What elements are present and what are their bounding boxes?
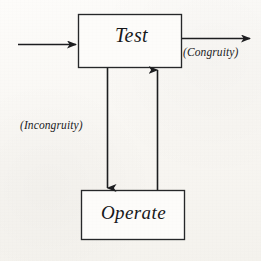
node-operate-label: Operate: [82, 203, 185, 223]
edge-congruity-label: (Congruity): [183, 46, 238, 58]
edge-incongruity-label: (Incongruity): [20, 119, 83, 131]
node-test-label: Test: [81, 25, 182, 45]
diagram-canvas: Test Operate (Congruity) (Incongruity): [0, 0, 261, 261]
